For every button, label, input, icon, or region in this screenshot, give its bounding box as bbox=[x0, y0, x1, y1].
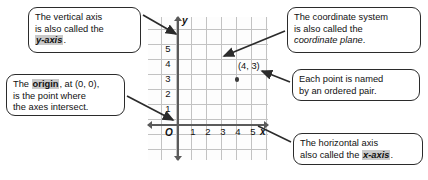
callout-x-axis-period: . bbox=[390, 150, 393, 160]
term-x-axis: x-axis bbox=[362, 150, 390, 160]
x-tick-1: 1 bbox=[187, 127, 199, 137]
x-tick-5: 5 bbox=[247, 127, 259, 137]
term-origin: origin bbox=[32, 79, 60, 89]
y-axis-label: y bbox=[182, 15, 188, 26]
callout-coordinate-plane-line1: The coordinate system bbox=[294, 12, 415, 24]
callout-x-axis-line1: The horizontal axis bbox=[300, 138, 417, 150]
x-tick-3: 3 bbox=[217, 127, 229, 137]
callout-coordinate-plane-line2: is also called the bbox=[294, 24, 415, 36]
callout-coordinate-plane: The coordinate system is also called the… bbox=[287, 7, 421, 53]
y-axis-arrow-up-icon bbox=[174, 16, 182, 21]
coordinate-plane-diagram: The vertical axis is also called the y-a… bbox=[0, 0, 428, 180]
x-axis-label: x bbox=[260, 126, 266, 137]
callout-ordered-pair-line1: Each point is named bbox=[299, 74, 414, 86]
callout-origin-line3: the axes intersect. bbox=[13, 102, 119, 114]
plotted-point bbox=[235, 77, 240, 82]
y-tick-1: 1 bbox=[162, 104, 174, 114]
callout-origin-prefix: The bbox=[13, 79, 32, 89]
callout-y-axis-period: . bbox=[63, 35, 66, 45]
callout-origin-suffix: , at (0, 0), bbox=[59, 79, 99, 89]
y-axis-line bbox=[177, 17, 179, 160]
origin-label: O bbox=[165, 127, 173, 138]
x-tick-4: 4 bbox=[232, 127, 244, 137]
callout-ordered-pair: Each point is named by an ordered pair. bbox=[292, 69, 420, 101]
y-axis-arrow-down-icon bbox=[174, 156, 182, 161]
x-axis-arrow-left-icon bbox=[147, 121, 152, 129]
callout-y-axis-line1: The vertical axis bbox=[35, 12, 135, 24]
callout-x-axis: The horizontal axis also called the x-ax… bbox=[293, 133, 423, 165]
callout-origin-line1: The origin, at (0, 0), bbox=[13, 79, 119, 91]
y-tick-4: 4 bbox=[162, 59, 174, 69]
term-y-axis: y-axis bbox=[35, 35, 63, 45]
callout-coordinate-plane-period: . bbox=[363, 35, 366, 45]
callout-ordered-pair-line2: by an ordered pair. bbox=[299, 86, 414, 98]
callout-origin: The origin, at (0, 0), is the point wher… bbox=[6, 74, 125, 116]
callout-y-axis-line3: y-axis. bbox=[35, 35, 135, 47]
callout-y-axis: The vertical axis is also called the y-a… bbox=[28, 7, 141, 53]
callout-x-axis-line2: also called the x-axis. bbox=[300, 150, 417, 162]
y-tick-5: 5 bbox=[162, 44, 174, 54]
callout-y-axis-line2: is also called the bbox=[35, 24, 135, 36]
coordinate-grid: y x O 1 2 3 4 5 1 2 3 4 5 (4, 3) bbox=[148, 17, 268, 160]
y-tick-3: 3 bbox=[162, 74, 174, 84]
y-tick-2: 2 bbox=[162, 89, 174, 99]
x-tick-2: 2 bbox=[202, 127, 214, 137]
callout-origin-line2: is the point where bbox=[13, 91, 119, 103]
term-coordinate-plane: coordinate plane bbox=[294, 35, 363, 45]
callout-x-axis-prefix: also called the bbox=[300, 150, 362, 160]
plotted-point-label: (4, 3) bbox=[238, 61, 260, 71]
callout-coordinate-plane-line3: coordinate plane. bbox=[294, 35, 415, 47]
